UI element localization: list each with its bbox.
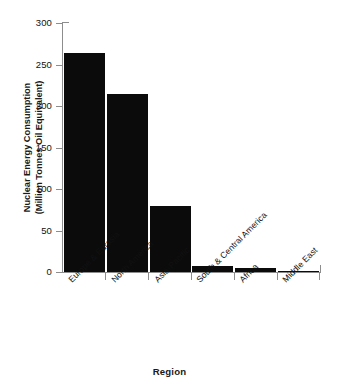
x-axis-tick <box>234 273 235 280</box>
bar <box>64 53 105 272</box>
x-axis-tick <box>277 273 278 280</box>
y-axis-tick <box>56 65 63 66</box>
x-axis-tick <box>148 273 149 280</box>
x-axis-end-tick <box>320 265 321 273</box>
y-axis-tick-label: 50 <box>41 226 52 236</box>
y-axis-tick <box>56 231 63 232</box>
x-axis-title: Region <box>0 366 339 377</box>
x-axis-tick <box>105 273 106 280</box>
y-axis-tick <box>56 23 63 24</box>
y-axis-tick-label: 0 <box>47 267 52 277</box>
y-axis-tick-label: 200 <box>36 101 52 111</box>
x-axis-tick <box>191 273 192 280</box>
y-axis-tick-label: 250 <box>36 60 52 70</box>
y-axis-tick-label: 300 <box>36 18 52 28</box>
y-axis-tick <box>56 189 63 190</box>
y-axis-title-line-1: Nuclear Energy Consumption <box>22 23 34 272</box>
y-axis-tick-label: 100 <box>36 184 52 194</box>
plot-area <box>63 23 320 272</box>
bar-chart: Nuclear Energy Consumption (Million Tonn… <box>0 0 339 385</box>
y-axis-tick <box>56 272 63 273</box>
y-axis-tick-label: 150 <box>36 143 52 153</box>
y-axis-tick <box>56 148 63 149</box>
x-axis-tick <box>319 273 320 280</box>
y-axis-tick <box>56 106 63 107</box>
